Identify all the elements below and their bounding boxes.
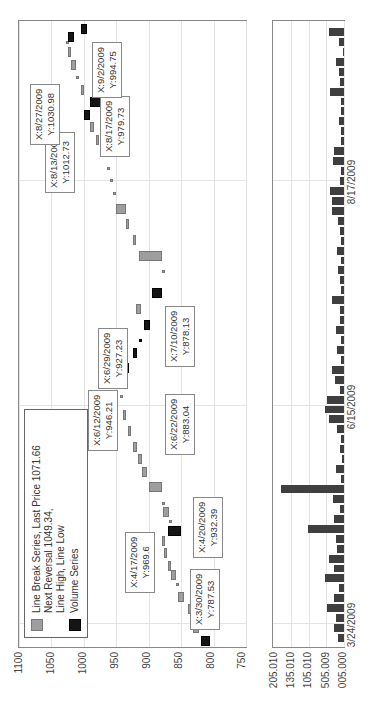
annotation-x: X:4/20/2009 bbox=[196, 502, 208, 553]
down-brick bbox=[81, 24, 87, 34]
volume-tick: 005.000 bbox=[337, 648, 348, 688]
down-brick bbox=[201, 636, 211, 646]
volume-bar bbox=[332, 366, 344, 374]
rotated-chart-canvas: 1100 1050 1000 950 900 850 800 750 205.0… bbox=[0, 0, 376, 713]
up-brick bbox=[126, 219, 129, 229]
up-brick bbox=[169, 520, 172, 523]
down-brick bbox=[133, 348, 138, 358]
volume-bar bbox=[337, 346, 344, 354]
annotation-y: Y:878.13 bbox=[180, 311, 192, 362]
annotation-y: Y:979.73 bbox=[115, 101, 127, 152]
legend-line: Volume Series bbox=[69, 549, 81, 613]
volume-bar bbox=[341, 237, 344, 245]
up-brick bbox=[162, 536, 165, 546]
annotation-x: X:3/30/2009 bbox=[193, 574, 205, 625]
up-brick bbox=[71, 60, 76, 70]
volume-bar bbox=[340, 445, 344, 453]
annotation-y: Y:927.23 bbox=[113, 333, 125, 384]
volume-bar bbox=[329, 555, 344, 563]
volume-tick: 135.010 bbox=[285, 648, 296, 688]
up-brick bbox=[113, 192, 116, 195]
volume-bar bbox=[334, 594, 344, 602]
annotation-x: X:7/10/2009 bbox=[168, 311, 180, 362]
up-brick bbox=[123, 410, 126, 420]
volume-bar bbox=[338, 217, 344, 225]
volume-bar bbox=[340, 177, 344, 185]
volume-bar bbox=[335, 376, 344, 384]
volume-bar bbox=[339, 117, 344, 125]
price-tick: 1050 bbox=[45, 648, 56, 674]
volume-bar bbox=[330, 187, 344, 195]
volume-bar bbox=[341, 137, 344, 145]
annotation-y: Y:883.04 bbox=[180, 399, 192, 450]
up-brick bbox=[168, 561, 171, 571]
volume-bar bbox=[341, 435, 344, 443]
volume-bar bbox=[341, 286, 344, 294]
volume-bar bbox=[340, 276, 344, 284]
annotation-3-30-2009: X:3/30/2009 Y:787.53 bbox=[190, 569, 220, 630]
annotation-6-12-2009: X:6/12/2009 Y:946.21 bbox=[88, 390, 118, 451]
volume-bar bbox=[334, 565, 344, 573]
up-brick bbox=[128, 426, 131, 436]
volume-bar bbox=[343, 48, 344, 56]
gray-swatch-icon bbox=[31, 619, 43, 631]
up-brick bbox=[171, 570, 176, 580]
volume-bar bbox=[341, 127, 344, 135]
date-tick: 8/17/2009 bbox=[346, 160, 357, 205]
volume-bar bbox=[329, 416, 344, 424]
volume-bar bbox=[336, 58, 344, 66]
volume-bar bbox=[342, 455, 344, 463]
volume-bar bbox=[341, 108, 344, 116]
up-brick bbox=[133, 235, 136, 245]
annotation-x: X:6/12/2009 bbox=[91, 395, 103, 446]
volume-bar bbox=[336, 614, 344, 622]
volume-bar bbox=[325, 574, 344, 582]
legend-text: Line Break Series, Last Price 1071.66 Ne… bbox=[31, 445, 67, 613]
volume-tick: 105.010 bbox=[302, 648, 313, 688]
up-brick bbox=[164, 548, 167, 558]
volume-gridline bbox=[291, 21, 292, 647]
annotation-8-27-2009: X:8/27/2009 Y:1030.98 bbox=[30, 84, 60, 145]
volume-bar bbox=[341, 336, 344, 344]
annotation-9-2-2009: X:9/2/2009 Y:994.75 bbox=[92, 42, 122, 98]
volume-gridline bbox=[344, 21, 345, 647]
volume-tick: 505.009 bbox=[320, 648, 331, 688]
up-brick bbox=[138, 454, 143, 464]
volume-gridline bbox=[309, 21, 310, 647]
date-gridline bbox=[19, 405, 246, 406]
volume-bar bbox=[339, 584, 344, 592]
annotation-4-20-2009: X:4/20/2009 Y:932.39 bbox=[193, 497, 223, 558]
volume-bar bbox=[341, 356, 344, 364]
up-brick bbox=[107, 167, 110, 170]
volume-bar bbox=[333, 157, 344, 165]
price-tick: 800 bbox=[205, 648, 216, 669]
up-brick bbox=[139, 251, 162, 261]
price-tick: 1000 bbox=[77, 648, 88, 674]
up-brick bbox=[76, 76, 79, 79]
annotation-y: Y:994.75 bbox=[107, 47, 119, 93]
volume-bar bbox=[341, 475, 344, 483]
price-tick: 1100 bbox=[13, 648, 24, 674]
volume-bar bbox=[339, 68, 344, 76]
volume-bar bbox=[340, 386, 344, 394]
volume-bar bbox=[332, 296, 344, 304]
annotation-x: X:8/27/2009 bbox=[33, 89, 45, 140]
annotation-y: Y:1012.73 bbox=[60, 137, 72, 188]
volume-bar bbox=[340, 227, 344, 235]
down-brick bbox=[139, 339, 142, 342]
price-gridline bbox=[19, 21, 20, 647]
date-tick: 6/15/2009 bbox=[346, 385, 357, 430]
volume-bar bbox=[341, 167, 344, 175]
down-brick bbox=[84, 110, 90, 120]
down-brick bbox=[68, 32, 74, 42]
volume-gridline bbox=[326, 21, 327, 647]
up-brick bbox=[163, 507, 169, 517]
price-tick: 950 bbox=[109, 648, 120, 669]
up-brick bbox=[178, 592, 184, 602]
volume-bar bbox=[336, 326, 344, 334]
annotation-x: X:9/2/2009 bbox=[95, 47, 107, 93]
up-brick bbox=[90, 122, 93, 132]
up-brick bbox=[68, 47, 71, 57]
volume-bar bbox=[330, 88, 344, 96]
volume-bar bbox=[333, 495, 344, 503]
